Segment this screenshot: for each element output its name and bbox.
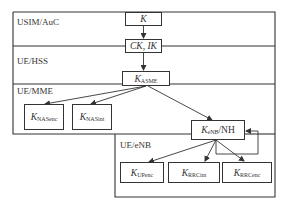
- key-k-upenc-sub: UPenc: [137, 172, 153, 178]
- region-label-usim-auc: USIM/AuC: [17, 17, 59, 27]
- key-k-enb-suffix: /NH: [218, 125, 234, 135]
- key-box-k-asme: KASME: [122, 71, 170, 86]
- key-box-k-upenc: KUPenc: [120, 162, 164, 183]
- key-k-label: K: [140, 14, 146, 24]
- key-box-k-rrcenc: KRRCenc: [222, 162, 272, 183]
- region-label-ue-hss: UE/HSS: [17, 56, 48, 66]
- key-box-ck-ik: CK, IK: [125, 39, 162, 53]
- key-k-asme-sub: ASME: [141, 78, 158, 84]
- key-box-k-nasenc: KNASenc: [24, 104, 64, 130]
- region-label-ue-mme: UE/MME: [17, 86, 53, 96]
- key-box-k-rrcint: KRRCint: [168, 162, 220, 183]
- key-box-k-nasint: KNASint: [72, 104, 112, 130]
- key-box-k-enb-nh: KeNB/NH: [191, 120, 245, 140]
- key-ck-ik-label: CK, IK: [130, 41, 157, 51]
- key-k-rrcenc-sub: RRCenc: [240, 172, 260, 178]
- key-k-rrcint-sub: RRCint: [188, 172, 206, 178]
- key-k-enb-sub: eNB: [207, 129, 218, 135]
- key-box-k: K: [125, 12, 162, 26]
- region-label-ue-enb: UE/eNB: [120, 140, 151, 150]
- key-k-nasenc-sub: NASenc: [37, 116, 57, 122]
- key-k-nasint-sub: NASint: [86, 116, 104, 122]
